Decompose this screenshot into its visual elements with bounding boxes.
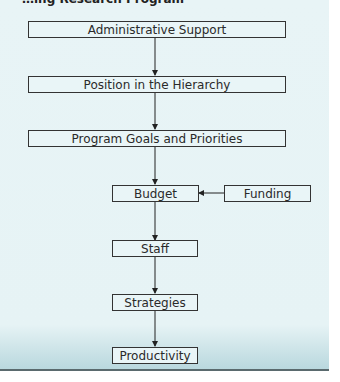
node-position-in-hierarchy: Position in the Hierarchy bbox=[28, 76, 286, 93]
node-budget: Budget bbox=[112, 185, 199, 202]
node-program-goals: Program Goals and Priorities bbox=[28, 130, 286, 147]
node-administrative-support: Administrative Support bbox=[28, 21, 286, 38]
node-strategies: Strategies bbox=[112, 294, 198, 311]
node-funding: Funding bbox=[224, 185, 311, 202]
node-staff: Staff bbox=[112, 240, 198, 257]
node-productivity: Productivity bbox=[112, 347, 198, 364]
